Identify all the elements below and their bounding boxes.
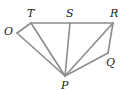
label-Q: Q (106, 56, 115, 69)
label-T: T (27, 7, 36, 20)
label-P: P (60, 79, 69, 90)
geometry-diagram: T S R O Q P (0, 0, 123, 90)
segment-OT (17, 23, 31, 33)
segment-SP (65, 23, 70, 76)
label-R: R (109, 7, 118, 20)
segment-QP (65, 53, 108, 76)
label-S: S (66, 7, 74, 20)
label-O: O (4, 25, 13, 38)
segments (17, 23, 113, 76)
